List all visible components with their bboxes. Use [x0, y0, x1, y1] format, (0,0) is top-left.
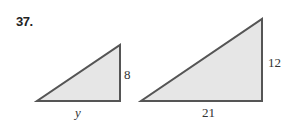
large-triangle-height-label: 12: [268, 55, 281, 71]
similar-triangles-figure: [0, 0, 292, 128]
large-triangle: [141, 19, 262, 101]
small-triangle-base-label: y: [75, 105, 81, 121]
small-triangle-height-label: 8: [124, 67, 131, 83]
small-triangle: [37, 45, 120, 101]
large-triangle-base-label: 21: [202, 105, 215, 121]
